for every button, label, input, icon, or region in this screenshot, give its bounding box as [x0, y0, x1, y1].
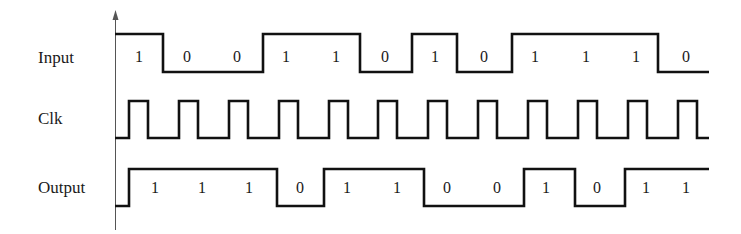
bit-value: 1: [542, 179, 550, 196]
bit-value: 1: [431, 48, 439, 65]
bit-value: 1: [531, 48, 539, 65]
arrow-up-icon: [113, 10, 119, 20]
bit-value: 1: [135, 48, 143, 65]
signal-input: Input 100110101110: [38, 34, 709, 72]
bit-value: 1: [332, 48, 340, 65]
clock-waveform: [115, 101, 709, 138]
bit-value: 0: [443, 179, 451, 196]
bit-value: 0: [682, 48, 690, 65]
output-bit-values: 111011001011: [151, 179, 690, 196]
signal-output: Output 111011001011: [38, 169, 709, 206]
bit-value: 1: [682, 179, 690, 196]
bit-value: 0: [493, 179, 501, 196]
bit-value: 1: [632, 48, 640, 65]
input-waveform: [115, 34, 709, 72]
timing-diagram: Input 100110101110 Clk Output 1110110010…: [0, 0, 741, 234]
bit-value: 0: [233, 48, 241, 65]
bit-value: 1: [393, 179, 401, 196]
bit-value: 0: [183, 48, 191, 65]
signal-label-clk: Clk: [38, 109, 63, 128]
bit-value: 0: [381, 48, 389, 65]
bit-value: 1: [245, 179, 253, 196]
signal-clk: Clk: [38, 101, 709, 138]
bit-value: 1: [582, 48, 590, 65]
bit-value: 1: [282, 48, 290, 65]
bit-value: 1: [642, 179, 650, 196]
time-axis: [113, 10, 119, 230]
bit-value: 0: [480, 48, 488, 65]
signal-label-output: Output: [38, 178, 86, 197]
bit-value: 0: [296, 179, 304, 196]
bit-value: 1: [343, 179, 351, 196]
signal-label-input: Input: [38, 48, 74, 67]
bit-value: 1: [198, 179, 206, 196]
bit-value: 1: [151, 179, 159, 196]
bit-value: 0: [593, 179, 601, 196]
